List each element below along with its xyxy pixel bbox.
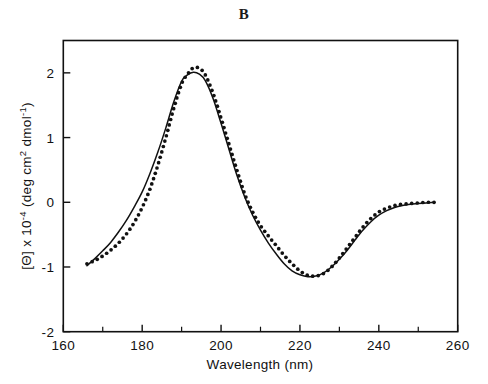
experimental-data-point (330, 265, 334, 269)
experimental-data-point (160, 150, 164, 154)
experimental-data-point (432, 200, 436, 204)
experimental-data-point (351, 238, 355, 242)
y-tick-label: 1 (46, 131, 54, 146)
y-axis-title-exponent: -4 (17, 211, 28, 220)
experimental-data-point (316, 274, 320, 278)
experimental-data-point (266, 234, 270, 238)
experimental-data-point (167, 123, 171, 127)
experimental-data-point (117, 240, 121, 244)
experimental-data-point (187, 71, 191, 75)
experimental-data-point (212, 94, 216, 98)
experimental-data-point (404, 202, 408, 206)
experimental-data-point (365, 221, 369, 225)
y-axis-title-main: [Θ] x 10 (19, 220, 34, 270)
experimental-data-point (348, 243, 352, 247)
experimental-data-point (190, 67, 194, 71)
experimental-data-point (259, 225, 263, 229)
experimental-data-point (288, 260, 292, 264)
experimental-data-point (270, 238, 274, 242)
experimental-data-point (305, 273, 309, 277)
experimental-data-point (322, 272, 326, 276)
experimental-data-point (235, 169, 239, 173)
y-axis-title-units-mid: dmol (19, 116, 34, 151)
experimental-data-point (239, 179, 243, 183)
x-tick-label: 260 (446, 338, 470, 353)
experimental-data-point (251, 211, 255, 215)
x-tick-label: 180 (130, 338, 154, 353)
experimental-data-point (214, 99, 218, 103)
y-axis-title-units-open: (deg cm (19, 156, 34, 211)
experimental-data-point (378, 210, 382, 214)
svg-text:[Θ] x 10-4 (deg cm2 dmol-1): [Θ] x 10-4 (deg cm2 dmol-1) (17, 102, 34, 270)
experimental-data-point (134, 218, 138, 222)
experimental-data-point (177, 91, 181, 95)
experimental-data-point (358, 229, 362, 233)
experimental-data-point (296, 267, 300, 271)
experimental-data-point (131, 223, 135, 227)
experimental-data-point (196, 66, 200, 70)
experimental-data-point (326, 268, 330, 272)
experimental-data-point (229, 147, 233, 151)
experimental-data-point (200, 68, 204, 72)
experimental-data-point (334, 260, 338, 264)
experimental-data-point (393, 204, 397, 208)
experimental-data-point (95, 257, 99, 261)
x-axis-ticks (63, 325, 457, 332)
experimental-data-point (142, 203, 146, 207)
experimental-data-point (284, 255, 288, 259)
experimental-data-point (181, 80, 185, 84)
x-tick-label: 200 (209, 338, 233, 353)
experimental-data-point (233, 163, 237, 167)
experimental-data-point (421, 201, 425, 205)
experimental-data-point (148, 187, 152, 191)
experimental-data-point (208, 83, 212, 87)
experimental-data-point (137, 213, 141, 217)
experimental-data-point (224, 131, 228, 135)
y-tick-label: 0 (46, 195, 54, 210)
experimental-data-point (410, 202, 414, 206)
experimental-data-point (144, 198, 148, 202)
plot-canvas: 160180200220240260 210-1-2 Wavelength (n… (0, 0, 488, 384)
experimental-data-point (163, 139, 167, 143)
experimental-data-point (237, 174, 241, 178)
experimental-data-point (216, 104, 220, 108)
experimental-data-point (217, 110, 221, 114)
experimental-data-point (173, 101, 177, 105)
experimental-data-point (225, 136, 229, 140)
experimental-data-point (399, 203, 403, 207)
experimental-data-point (232, 158, 236, 162)
y-tick-label: -1 (41, 260, 54, 275)
experimental-data-point (100, 255, 104, 259)
experimental-data-point (220, 120, 224, 124)
experimental-data-point (155, 166, 159, 170)
experimental-data-point (246, 200, 250, 204)
experimental-data-point (311, 274, 315, 278)
experimental-data-point (300, 271, 304, 275)
experimental-data-point (254, 215, 258, 219)
experimental-data-point (256, 220, 260, 224)
experimental-data-point (139, 208, 143, 212)
experimental-data-point (273, 243, 277, 247)
y-axis-ticks (63, 73, 70, 332)
experimental-data-point (206, 78, 210, 82)
experimental-data-point (338, 256, 342, 260)
experimental-data-point (109, 248, 113, 252)
x-axis-tick-labels: 160180200220240260 (51, 338, 469, 353)
experimental-data-point (361, 225, 365, 229)
experimental-data-point (242, 190, 246, 194)
series-experimental (85, 66, 436, 279)
experimental-data-point (170, 112, 174, 116)
experimental-data-point (210, 88, 214, 92)
y-axis-title-units-sup2: -1 (17, 107, 28, 116)
experimental-data-point (128, 227, 132, 231)
y-axis-tick-labels: 210-1-2 (41, 66, 54, 340)
experimental-data-point (280, 251, 284, 255)
experimental-data-point (373, 213, 377, 217)
experimental-data-point (277, 247, 281, 251)
experimental-data-point (166, 128, 170, 132)
experimental-data-point (240, 185, 244, 189)
experimental-data-point (244, 195, 248, 199)
experimental-data-point (165, 134, 169, 138)
experimental-data-point (203, 73, 207, 77)
experimental-data-point (150, 182, 154, 186)
